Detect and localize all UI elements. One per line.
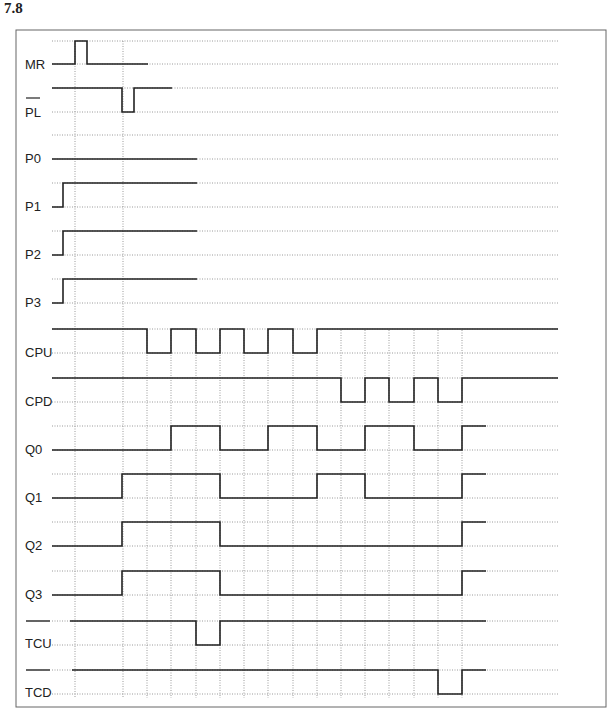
signal-label-cpd: CPD (25, 394, 52, 409)
waveform-tcd (72, 670, 486, 694)
waveform-p2 (52, 231, 197, 255)
signal-label-q1: Q1 (25, 490, 42, 505)
waveform-q1 (52, 474, 486, 498)
waveform-pl (52, 88, 172, 112)
waveform-p3 (52, 279, 197, 303)
signal-label-q2: Q2 (25, 538, 42, 553)
signal-label-q0: Q0 (25, 442, 42, 457)
signal-label-tcd: TCD (25, 685, 52, 700)
signal-label-p1: P1 (25, 199, 41, 214)
signal-labels: MRPLP0P1P2P3CPUCPDQ0Q1Q2Q3TCUTCD (25, 57, 52, 700)
signal-label-cpu: CPU (25, 345, 52, 360)
waveform-mr (52, 41, 148, 64)
signal-waveforms (26, 41, 558, 694)
timing-diagram: MRPLP0P1P2P3CPUCPDQ0Q1Q2Q3TCUTCD (0, 0, 616, 715)
diagram-frame (16, 30, 606, 707)
waveform-tcu (70, 621, 486, 645)
signal-label-mr: MR (25, 57, 45, 72)
signal-label-tcu: TCU (25, 636, 52, 651)
waveform-q2 (52, 522, 486, 546)
signal-label-p3: P3 (25, 295, 41, 310)
signal-label-p2: P2 (25, 247, 41, 262)
waveform-q0 (52, 426, 486, 450)
signal-label-q3: Q3 (25, 587, 42, 602)
waveform-p1 (52, 183, 197, 207)
waveform-cpu (52, 329, 558, 353)
signal-label-pl: PL (25, 105, 41, 120)
waveform-q3 (52, 571, 486, 595)
grid-lines (52, 41, 558, 698)
waveform-cpd (52, 378, 558, 402)
signal-label-p0: P0 (25, 151, 41, 166)
